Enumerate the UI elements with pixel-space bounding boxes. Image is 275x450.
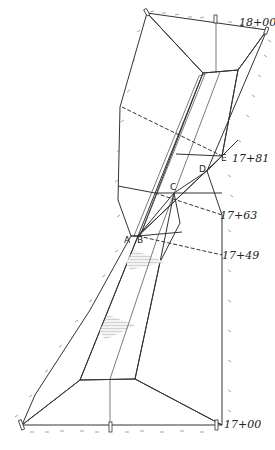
stake-top-center: [214, 15, 217, 23]
stake-top-left: [144, 8, 150, 16]
roadway-shadow-2: [100, 315, 135, 340]
point-C-label: C: [170, 182, 176, 192]
stake-bottom-right: [215, 420, 218, 430]
station-1781-label: 17+81: [232, 152, 269, 165]
point-E-label: E: [221, 153, 227, 163]
section-AB: [138, 232, 182, 236]
section-1781-dash: [122, 107, 222, 156]
point-D-label: D: [199, 164, 206, 174]
station-1749-label: 17+49: [222, 249, 259, 262]
section-1763-left: [118, 186, 155, 193]
cut-left-slope: [118, 13, 203, 236]
stake-bottom-center: [109, 422, 112, 432]
point-B-label: B: [137, 235, 143, 245]
point-A-label: A: [124, 235, 131, 245]
fill-bottom-surface: [22, 379, 222, 425]
station-1800-label: 18+00: [239, 16, 275, 29]
fill-roadway: [80, 193, 180, 380]
section-1781: [176, 154, 222, 156]
station-1700-label: 17+00: [224, 418, 261, 431]
fill-right-slope: [135, 171, 222, 425]
earthwork-diagram: E D C A B 18+00 17+81 17+63 17+49 17+00: [0, 0, 275, 450]
station-1763-label: 17+63: [220, 209, 257, 222]
section-1749: [138, 236, 222, 255]
